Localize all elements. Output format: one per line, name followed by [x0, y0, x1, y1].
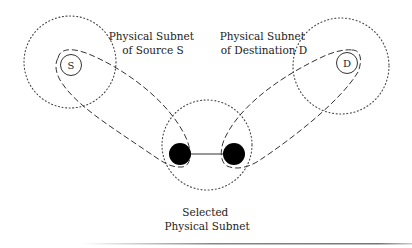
source-subnet-label-line2: of Source S [122, 44, 183, 56]
selected-subnet-label-line2: Physical Subnet [164, 220, 250, 232]
destination-node: D [337, 53, 358, 74]
source-subnet-label-line1: Physical Subnet [109, 30, 195, 42]
destination-subnet-label: Physical Subnet of Destination D [220, 30, 309, 56]
source-node: S [61, 55, 82, 76]
destination-subnet-label-line2: of Destination D [221, 44, 308, 56]
bottom-rule [80, 243, 412, 245]
subnet-diagram: S D Physical Subnet of Source S Physical… [0, 0, 412, 248]
selected-node-right [223, 143, 245, 165]
selected-subnet-label-line1: Selected [182, 206, 228, 218]
source-node-label: S [68, 60, 75, 71]
source-subnet-label: Physical Subnet of Source S [109, 30, 198, 56]
selected-subnet-label: Selected Physical Subnet [164, 206, 250, 232]
destination-node-label: D [343, 58, 351, 69]
destination-subnet-label-line1: Physical Subnet [220, 30, 306, 42]
selected-node-left [169, 143, 191, 165]
